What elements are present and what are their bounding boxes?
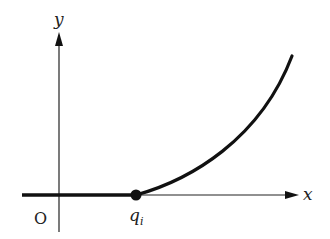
origin-label: O xyxy=(34,209,47,228)
rising-curve xyxy=(136,56,292,195)
y-axis-label: y xyxy=(53,9,64,29)
x-axis-label: x xyxy=(303,184,313,204)
diagram: y x O qi xyxy=(0,0,330,239)
point-label-main: q xyxy=(129,205,140,225)
y-axis-arrow-icon xyxy=(55,32,63,46)
x-axis-arrow-icon xyxy=(285,191,299,199)
point-label: qi xyxy=(129,205,143,228)
point-q-i xyxy=(131,190,142,201)
point-label-subscript: i xyxy=(140,215,144,228)
